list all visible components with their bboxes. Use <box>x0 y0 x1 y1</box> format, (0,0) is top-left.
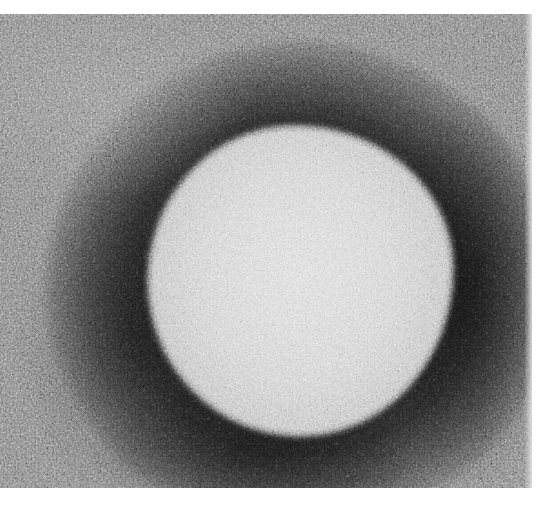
micrograph <box>0 14 532 488</box>
fine-grain-texture <box>0 14 532 488</box>
right-edge-fade <box>524 14 532 488</box>
